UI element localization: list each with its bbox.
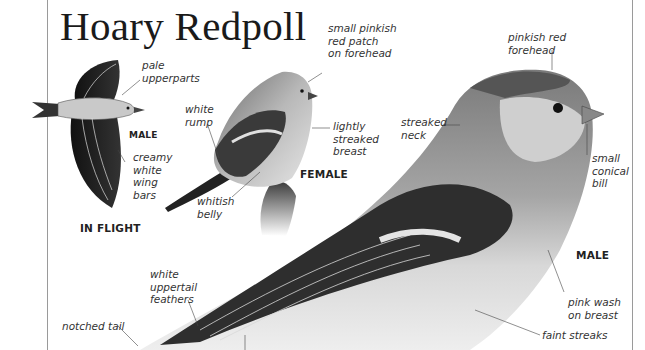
annotation-white-uppertail-feathers: white uppertail feathers (150, 268, 197, 306)
flying-lower-wing (71, 112, 121, 208)
annotation-pink-wash-on-breast: pink wash on breast (568, 296, 621, 321)
flight-caption: IN FLIGHT (80, 222, 141, 234)
annotation-creamy-white-wing-bars: creamy white wing bars (133, 151, 172, 201)
annotation-white-rump: white rump (185, 103, 214, 128)
flying-tail (32, 102, 60, 118)
flying-beak (134, 107, 145, 113)
female-beak (308, 92, 318, 100)
flying-upper-wing (75, 60, 120, 104)
annotation-whitish-belly: whitish belly (197, 195, 234, 220)
annotation-notched-tail: notched tail (62, 320, 124, 333)
flight-sex-label: MALE (129, 130, 158, 140)
female-caption: FEMALE (300, 168, 348, 180)
male-eye (553, 103, 563, 113)
female-perch (260, 181, 296, 236)
annotation-pale-upperparts: pale upperparts (142, 59, 200, 84)
annotation-streaked-neck: streaked neck (401, 116, 447, 141)
female-bird-illustration (165, 72, 318, 236)
annotation-lightly-streaked-breast: lightly streaked breast (333, 120, 379, 158)
annotation-faint-streaks: faint streaks (542, 329, 608, 342)
male-beak (582, 106, 604, 124)
annotation-pinkish-red-forehead: pinkish red forehead (508, 31, 566, 56)
flying-body (58, 98, 135, 120)
annotation-small-conical-bill: small conical bill (592, 152, 629, 190)
annotation-small-pinkish-red-patch: small pinkish red patch on forehead (328, 22, 397, 60)
male-caption: MALE (576, 249, 609, 261)
